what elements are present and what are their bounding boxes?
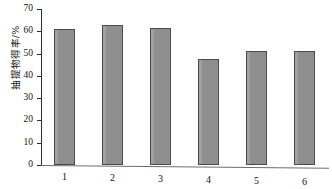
y-tick-label: 30 bbox=[11, 93, 33, 103]
y-tick-mark bbox=[37, 54, 41, 55]
x-axis-line bbox=[41, 165, 329, 169]
bar-highlight bbox=[151, 29, 154, 164]
y-tick-mark bbox=[37, 31, 41, 32]
x-tick-label: 1 bbox=[50, 171, 80, 182]
bar-highlight bbox=[103, 26, 106, 164]
x-tick-label: 4 bbox=[194, 174, 224, 185]
bar-highlight bbox=[295, 52, 298, 164]
plot-area: 010203040506070 123456 bbox=[41, 9, 329, 165]
bar bbox=[294, 51, 315, 165]
y-tick-label: 50 bbox=[11, 49, 33, 59]
y-axis-line bbox=[41, 9, 42, 165]
y-tick-mark bbox=[37, 9, 41, 10]
y-tick-mark bbox=[37, 76, 41, 77]
y-tick-label: 20 bbox=[11, 115, 33, 125]
bar-highlight bbox=[199, 60, 202, 164]
x-tick-label: 6 bbox=[290, 176, 320, 187]
y-tick-label: 70 bbox=[11, 4, 33, 14]
y-tick-mark bbox=[37, 98, 41, 99]
bar bbox=[102, 25, 123, 165]
y-tick-label: 10 bbox=[11, 138, 33, 148]
x-tick-label: 5 bbox=[242, 175, 272, 186]
bar-highlight bbox=[55, 30, 58, 164]
bar bbox=[150, 28, 171, 165]
y-tick-mark bbox=[37, 143, 41, 144]
x-tick-label: 3 bbox=[146, 173, 176, 184]
bar bbox=[54, 29, 75, 165]
y-tick-label: 0 bbox=[11, 160, 33, 170]
bar-highlight bbox=[247, 52, 250, 164]
y-tick-mark bbox=[37, 165, 41, 166]
x-tick-label: 2 bbox=[98, 172, 128, 183]
bar-chart: 抽提物得率/% 010203040506070 123456 bbox=[0, 0, 332, 189]
y-tick-label: 60 bbox=[11, 26, 33, 36]
bar bbox=[246, 51, 267, 165]
bar bbox=[198, 59, 219, 165]
y-tick-label: 40 bbox=[11, 71, 33, 81]
y-tick-mark bbox=[37, 120, 41, 121]
